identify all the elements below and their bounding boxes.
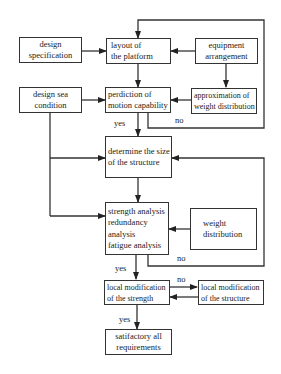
- node-design-sea-condition: design sea condition: [19, 87, 82, 113]
- node-text: perdiction of: [108, 89, 170, 100]
- node-text: distribution: [203, 229, 256, 240]
- node-satisfactory-requirements: satifactory all requirements: [105, 329, 172, 355]
- node-text: arrangement: [205, 51, 247, 62]
- node-text: local modification: [201, 282, 263, 293]
- node-text: of the strength: [107, 293, 169, 304]
- node-text: satifactory all: [115, 331, 162, 342]
- node-text: layout of: [111, 40, 170, 51]
- node-text: equipment: [209, 40, 245, 51]
- label-no: no: [175, 115, 184, 125]
- node-text: the platform: [111, 51, 170, 62]
- label-yes: yes: [114, 118, 125, 128]
- node-text: requirements: [116, 342, 160, 353]
- node-text: analysis: [108, 229, 168, 241]
- node-approximation-weight-distribution: approximation of weight distribution: [191, 88, 257, 114]
- node-text: local modification: [107, 282, 169, 293]
- label-no: no: [177, 253, 186, 263]
- node-text: of the structure: [108, 157, 171, 168]
- node-equipment-arrangement: equipment arrangement: [195, 38, 258, 64]
- node-text: motion capability: [108, 100, 170, 111]
- node-text: weight: [203, 218, 256, 229]
- node-text: redundancy: [108, 217, 168, 229]
- node-text: specification: [29, 50, 72, 61]
- node-text: weight distribution: [194, 101, 256, 112]
- node-design-specification: design specification: [19, 37, 82, 63]
- label-no: no: [177, 274, 186, 284]
- node-text: approximation of: [194, 90, 256, 101]
- node-local-modification-strength: local modification of the strength: [104, 280, 170, 305]
- node-text: design: [39, 39, 61, 50]
- node-text: of the structure: [201, 293, 263, 304]
- node-local-modification-structure: local modification of the structure: [198, 280, 264, 305]
- node-strength-analysis: strength analysis redundancy analysis fa…: [105, 202, 169, 255]
- node-text: design sea: [33, 89, 68, 100]
- node-weight-distribution: weight distribution: [190, 208, 257, 250]
- node-text: condition: [34, 100, 66, 111]
- node-text: fatigue analysis: [108, 240, 168, 252]
- node-text: strength analysis: [108, 206, 168, 218]
- label-yes: yes: [115, 263, 126, 273]
- node-layout-of-platform: layout of the platform: [106, 38, 171, 64]
- node-determine-size: determine the size of the structure: [105, 136, 172, 178]
- node-prediction-motion-capability: perdiction of motion capability: [105, 87, 171, 113]
- label-yes: yes: [119, 314, 130, 324]
- node-text: determine the size: [108, 146, 171, 157]
